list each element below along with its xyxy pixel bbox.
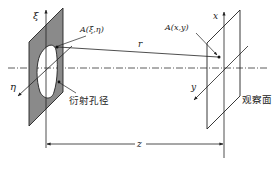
observation-screen [207, 10, 240, 129]
aperture-point-label: A(ξ,η) [79, 25, 104, 34]
aperture-caption: 衍射孔径 [69, 95, 109, 106]
observation-point [218, 56, 221, 59]
distance-r-label: r [138, 39, 143, 49]
fresnel-diffraction-diagram: ξ η A(ξ,η) 衍射孔径 r x y A(x,y) 观察面 z [0, 0, 276, 172]
xi-label: ξ [33, 10, 39, 21]
observation-caption: 观察面 [242, 94, 272, 105]
eta-label: η [10, 81, 16, 92]
aperture-edge-point [58, 81, 61, 84]
observation-point-label: A(x,y) [164, 23, 189, 32]
x-label: x [213, 11, 218, 21]
aperture-plane: ξ η A(ξ,η) 衍射孔径 [10, 8, 109, 148]
z-label: z [136, 139, 142, 149]
eta-axis [18, 46, 72, 96]
separation-dimension: z [47, 139, 223, 149]
observation-plane: x y A(x,y) 观察面 [164, 10, 272, 158]
y-label: y [190, 82, 197, 92]
